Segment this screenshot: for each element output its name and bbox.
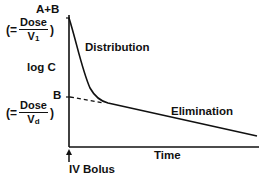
- denominator-vd: Vd: [27, 113, 39, 126]
- open-paren: (=: [6, 24, 17, 36]
- concentration-curve: [69, 18, 257, 136]
- intercept-b-label: B: [53, 90, 61, 102]
- numerator-dose: Dose: [19, 100, 48, 113]
- intercept-a-plus-b-label: A+B: [36, 4, 59, 16]
- distribution-phase-label: Distribution: [85, 42, 150, 54]
- close-paren: ): [50, 24, 54, 36]
- dose-over-vd-formula: (= Dose Vd ): [6, 100, 54, 126]
- close-paren: ): [50, 107, 54, 119]
- iv-bolus-label: IV Bolus: [69, 164, 115, 176]
- denominator-v1: V1: [28, 30, 40, 43]
- x-axis-label: Time: [154, 150, 181, 162]
- open-paren: (=: [6, 107, 17, 119]
- dose-over-v1-formula: (= Dose V1 ): [6, 17, 54, 43]
- iv-bolus-arrow-icon: [66, 149, 72, 155]
- y-axis-label: log C: [27, 62, 56, 74]
- elimination-phase-label: Elimination: [171, 106, 233, 118]
- numerator-dose: Dose: [19, 17, 48, 30]
